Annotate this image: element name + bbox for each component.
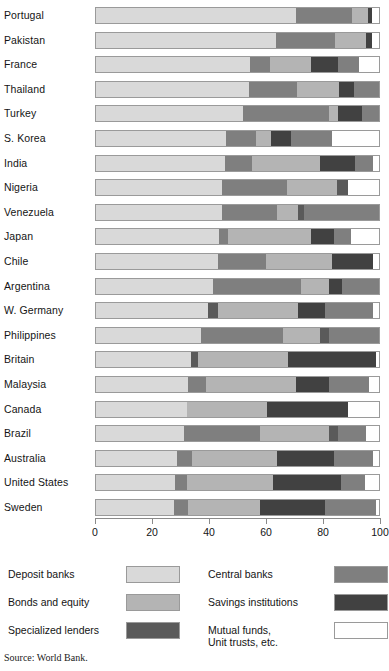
row-label: W. Germany <box>4 301 88 320</box>
bar-rows: PortugalPakistanFranceThailandTurkeyS. K… <box>0 6 388 522</box>
bar-segment-central-banks <box>362 106 379 121</box>
bar-segment-deposit-banks <box>96 352 191 367</box>
legend-item-central-banks[interactable]: Central banks <box>208 566 388 585</box>
bar-segment-mutual-funds <box>351 229 379 244</box>
bar-segment-deposit-banks <box>96 205 222 220</box>
bar-segment-deposit-banks <box>96 451 177 466</box>
bar-segment-bonds-equity <box>283 328 320 343</box>
bar-row: Malaysia <box>0 375 388 394</box>
legend-column-right: Central banksSavings institutionsMutual … <box>208 566 388 650</box>
legend-item-specialized-lenders[interactable]: Specialized lenders <box>8 622 188 641</box>
bar-row: S. Korea <box>0 129 388 148</box>
bar-row: Venezuela <box>0 203 388 222</box>
axis-tick-label: 100 <box>371 526 389 538</box>
bar-segment-central-banks <box>174 500 188 515</box>
bar-segment-mutual-funds <box>359 57 379 72</box>
legend-item-savings-institutions[interactable]: Savings institutions <box>208 594 388 613</box>
stacked-bar <box>95 228 380 245</box>
source-note: Source: World Bank. <box>4 652 88 663</box>
bar-segment-savings-institutions <box>339 82 353 97</box>
bar-segment-central-banks <box>188 377 206 392</box>
row-label: Malaysia <box>4 375 88 394</box>
bar-segment-deposit-banks <box>96 500 174 515</box>
bar-segment-central-banks <box>338 426 366 441</box>
bar-segment-bonds-equity <box>252 156 320 171</box>
bar-segment-mutual-funds <box>372 8 379 23</box>
bar-row: Philippines <box>0 326 388 345</box>
legend-swatch <box>334 594 388 611</box>
bar-segment-deposit-banks <box>96 279 213 294</box>
bar-segment-mutual-funds <box>348 180 379 195</box>
axis-tick <box>323 518 324 524</box>
bar-row: France <box>0 55 388 74</box>
row-label: Thailand <box>4 80 88 99</box>
stacked-bar <box>95 425 380 442</box>
row-label: Turkey <box>4 104 88 123</box>
bar-segment-deposit-banks <box>96 106 243 121</box>
bar-segment-central-banks <box>213 279 301 294</box>
legend-label: Deposit banks <box>8 566 120 580</box>
stacked-bar <box>95 130 380 147</box>
bar-segment-deposit-banks <box>96 57 250 72</box>
bar-segment-central-banks <box>329 328 379 343</box>
bar-segment-bonds-equity <box>266 254 333 269</box>
legend-item-mutual-funds[interactable]: Mutual funds, Unit trusts, etc. <box>208 622 388 641</box>
bar-segment-specialized-lenders <box>329 426 337 441</box>
bar-segment-central-banks <box>355 156 373 171</box>
stacked-bar <box>95 278 380 295</box>
axis-tick-label: 80 <box>317 526 329 538</box>
bar-segment-deposit-banks <box>96 33 276 48</box>
bar-segment-central-banks <box>218 254 266 269</box>
stacked-bar <box>95 204 380 221</box>
bar-segment-mutual-funds <box>332 131 379 146</box>
legend-label: Mutual funds, Unit trusts, etc. <box>208 622 320 648</box>
axis-tick <box>95 518 96 524</box>
axis-tick-label: 0 <box>92 526 98 538</box>
row-label: Australia <box>4 449 88 468</box>
bar-segment-central-banks <box>249 82 297 97</box>
bar-row: Portugal <box>0 6 388 25</box>
bar-segment-central-banks <box>342 279 379 294</box>
bar-segment-bonds-equity <box>287 180 337 195</box>
axis-tick-label: 60 <box>260 526 272 538</box>
row-label: India <box>4 154 88 173</box>
bar-segment-central-banks <box>175 475 186 490</box>
bar-segment-deposit-banks <box>96 156 225 171</box>
stacked-bar <box>95 351 380 368</box>
legend-column-left: Deposit banksBonds and equitySpecialized… <box>8 566 188 650</box>
bar-segment-bonds-equity <box>329 106 337 121</box>
bar-segment-specialized-lenders <box>208 303 218 318</box>
legend: Deposit banksBonds and equitySpecialized… <box>0 566 388 646</box>
bar-segment-bonds-equity <box>218 303 299 318</box>
legend-item-bonds-equity[interactable]: Bonds and equity <box>8 594 188 613</box>
bar-segment-deposit-banks <box>96 426 184 441</box>
bar-segment-deposit-banks <box>96 254 218 269</box>
bar-segment-mutual-funds <box>373 451 379 466</box>
legend-swatch <box>334 622 388 639</box>
bar-segment-mutual-funds <box>373 156 379 171</box>
bar-segment-central-banks <box>334 229 351 244</box>
bar-segment-central-banks <box>291 131 332 146</box>
bar-segment-central-banks <box>304 205 379 220</box>
bar-segment-specialized-lenders <box>320 328 330 343</box>
bar-segment-central-banks <box>184 426 260 441</box>
bar-segment-savings-institutions <box>311 229 334 244</box>
bar-segment-central-banks <box>222 205 277 220</box>
stacked-bar <box>95 376 380 393</box>
row-label: Japan <box>4 227 88 246</box>
legend-swatch <box>126 622 180 639</box>
bar-segment-deposit-banks <box>96 82 249 97</box>
bar-segment-central-banks <box>219 229 227 244</box>
bar-row: Brazil <box>0 424 388 443</box>
bar-segment-deposit-banks <box>96 8 296 23</box>
row-label: Portugal <box>4 6 88 25</box>
bar-segment-mutual-funds <box>366 426 379 441</box>
stacked-bar <box>95 450 380 467</box>
row-label: Sweden <box>4 498 88 517</box>
bar-segment-bonds-equity <box>297 82 339 97</box>
bar-segment-savings-institutions <box>296 377 330 392</box>
legend-item-deposit-banks[interactable]: Deposit banks <box>8 566 188 585</box>
bar-segment-central-banks <box>276 33 335 48</box>
axis-tick <box>152 518 153 524</box>
